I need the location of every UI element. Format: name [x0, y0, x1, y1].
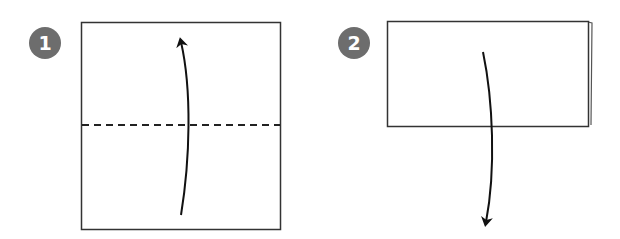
origami-diagram [0, 0, 620, 239]
step-1-diagram [82, 23, 281, 230]
square-paper [82, 23, 281, 230]
folded-rectangle [388, 22, 589, 127]
step-2-diagram [388, 22, 593, 223]
